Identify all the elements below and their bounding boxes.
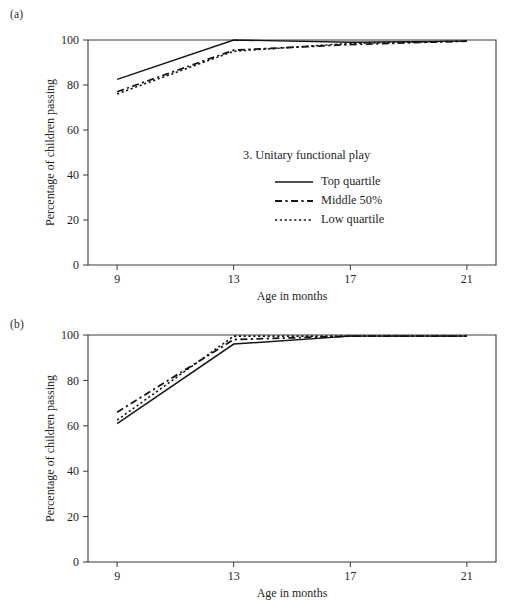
plot-area-b: 0204060801009131721Age in monthsPercenta…: [0, 310, 512, 611]
legend-swatch-dashed-icon: [273, 195, 315, 207]
x-tick-label: 17: [344, 569, 356, 583]
x-axis-title: Age in months: [257, 586, 328, 600]
y-axis-title: Percentage of children passing: [43, 79, 57, 226]
series-line-dashed: [117, 41, 467, 92]
legend-a: 3. Unitary functional play Top quartile …: [243, 148, 443, 229]
x-tick-label: 17: [344, 272, 356, 286]
x-axis-title: Age in months: [257, 289, 328, 303]
y-tick-label: 100: [61, 33, 79, 47]
x-tick-label: 13: [228, 272, 240, 286]
x-tick-label: 9: [114, 569, 120, 583]
legend-title-a: 3. Unitary functional play: [243, 148, 443, 163]
y-tick-label: 40: [67, 168, 79, 182]
legend-label-low-quartile: Low quartile: [321, 212, 384, 227]
axis-frame: [88, 335, 496, 562]
x-tick-label: 9: [114, 272, 120, 286]
y-tick-label: 80: [67, 374, 79, 388]
series-line-dotted: [117, 41, 467, 94]
series-line-solid: [117, 336, 467, 423]
legend-entry-low-quartile: Low quartile: [273, 210, 443, 229]
y-tick-label: 60: [67, 419, 79, 433]
y-axis-title: Percentage of children passing: [43, 375, 57, 522]
chart-panel-a: (a) 0204060801009131721Age in monthsPerc…: [0, 0, 512, 310]
figure-children-passing-play-types: (a) 0204060801009131721Age in monthsPerc…: [0, 0, 512, 611]
x-tick-label: 21: [461, 272, 473, 286]
y-tick-label: 60: [67, 123, 79, 137]
y-tick-label: 0: [73, 258, 79, 272]
y-tick-label: 0: [73, 555, 79, 569]
legend-label-middle-50: Middle 50%: [321, 193, 382, 208]
y-tick-label: 20: [67, 213, 79, 227]
y-tick-label: 20: [67, 510, 79, 524]
legend-entry-top-quartile: Top quartile: [273, 172, 443, 191]
legend-label-top-quartile: Top quartile: [321, 174, 381, 189]
series-line-solid: [117, 40, 467, 79]
series-line-dashed: [117, 336, 467, 412]
legend-swatch-solid-icon: [273, 176, 315, 188]
series-line-dotted: [117, 336, 467, 420]
y-tick-label: 40: [67, 464, 79, 478]
y-tick-label: 100: [61, 328, 79, 342]
legend-swatch-dotted-icon: [273, 214, 315, 226]
x-tick-label: 21: [461, 569, 473, 583]
x-tick-label: 13: [228, 569, 240, 583]
y-tick-label: 80: [67, 78, 79, 92]
chart-panel-b: (b) 0204060801009131721Age in monthsPerc…: [0, 310, 512, 611]
legend-entry-middle-50: Middle 50%: [273, 191, 443, 210]
